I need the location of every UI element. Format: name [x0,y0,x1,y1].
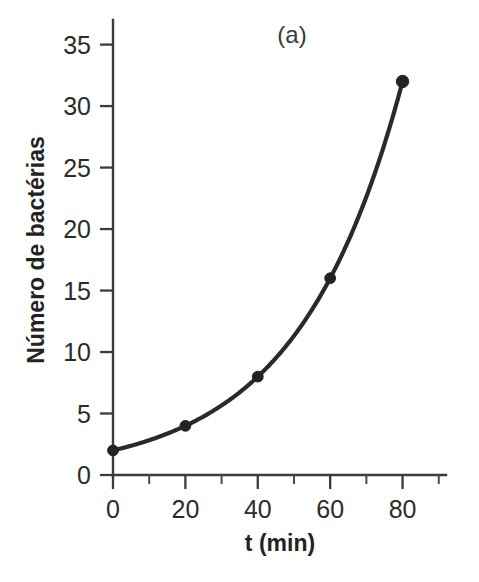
chart-canvas: 05101520253035 020406080 t (min) Número … [0,0,479,582]
x-tick-label-60: 60 [316,495,344,523]
data-point-60-16 [325,273,336,284]
y-axis-title: Número de bactérias [23,136,49,364]
y-tick-label-10: 10 [63,338,91,366]
data-point-40-8 [252,371,263,382]
y-tick-label-0: 0 [77,461,91,489]
y-tick-label-20: 20 [63,215,91,243]
x-tick-label-40: 40 [244,495,272,523]
y-tick-label-25: 25 [63,154,91,182]
data-point-0-2 [108,445,119,456]
y-tick-label-30: 30 [63,92,91,120]
data-point-20-4 [180,420,191,431]
x-tick-label-20: 20 [171,495,199,523]
x-axis-title: t (min) [245,530,315,556]
x-tick-label-80: 80 [389,495,417,523]
panel-label: (a) [277,21,306,48]
bacteria-growth-figure: 05101520253035 020406080 t (min) Número … [0,0,479,582]
y-tick-label-5: 5 [77,400,91,428]
data-point-80-32 [396,75,408,87]
y-tick-label-15: 15 [63,277,91,305]
y-tick-label-35: 35 [63,31,91,59]
x-tick-label-0: 0 [106,495,120,523]
